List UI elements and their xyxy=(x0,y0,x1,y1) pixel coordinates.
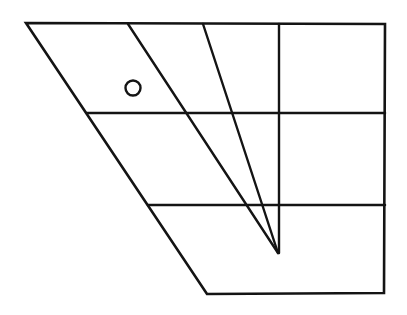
panel-outline xyxy=(26,23,385,294)
figure-canvas xyxy=(0,0,407,315)
line-drawing-figure xyxy=(0,0,407,315)
